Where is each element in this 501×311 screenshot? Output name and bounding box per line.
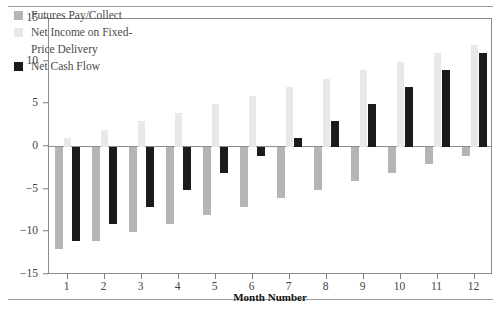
legend-swatch-icon <box>14 28 23 37</box>
legend-item-label-continuation: Price Delivery <box>14 42 98 57</box>
legend-item-label: Futures Pay/Collect <box>31 8 122 23</box>
x-axis-tick-mark <box>474 274 475 279</box>
bar <box>462 147 469 156</box>
x-axis-tick-mark <box>215 274 216 279</box>
x-axis-tick-mark <box>289 274 290 279</box>
bar <box>249 96 256 147</box>
x-axis-tick-mark <box>400 274 401 279</box>
legend-item-futures-pay-collect: Futures Pay/Collect <box>14 8 132 23</box>
y-axis-tick-text: 0 <box>32 140 43 152</box>
x-axis-tick-mark <box>178 274 179 279</box>
bar <box>72 147 79 241</box>
top-divider-rule <box>8 6 493 7</box>
bar <box>183 147 190 190</box>
bar <box>109 147 116 224</box>
bar <box>331 121 338 147</box>
bar <box>64 138 71 147</box>
x-axis-tick-mark <box>326 274 327 279</box>
bar <box>360 70 367 147</box>
bar <box>471 45 478 147</box>
bar <box>166 147 173 224</box>
bar <box>479 53 486 147</box>
x-axis-tick-mark <box>104 274 105 279</box>
bar-group <box>345 19 382 273</box>
bar <box>92 147 99 241</box>
bar <box>405 87 412 147</box>
legend-item-label: Net Cash Flow <box>31 59 100 74</box>
bar <box>294 138 301 147</box>
bar <box>257 147 264 156</box>
legend-item-net-cash-flow: Net Cash Flow <box>14 59 132 74</box>
bar-group <box>234 19 271 273</box>
bar <box>388 147 395 173</box>
bar <box>220 147 227 173</box>
bar-group <box>308 19 345 273</box>
x-axis-tick-mark <box>141 274 142 279</box>
legend: Futures Pay/Collect Net Income on Fixed-… <box>14 8 132 76</box>
bar-group <box>197 19 234 273</box>
bar <box>351 147 358 181</box>
bar <box>277 147 284 198</box>
bar-group <box>271 19 308 273</box>
legend-item-label: Net Income on Fixed- <box>31 25 132 40</box>
y-axis-tick-label: −10 <box>20 226 48 238</box>
bar-group <box>456 19 493 273</box>
bar <box>175 113 182 147</box>
legend-item-net-income-fixed-price-delivery: Net Income on Fixed- <box>14 25 132 40</box>
bar <box>55 147 62 249</box>
y-axis-tick-text: −10 <box>20 226 43 238</box>
y-axis-tick-label: 0 <box>32 140 48 152</box>
bar <box>323 79 330 147</box>
bar <box>240 147 247 207</box>
y-axis-tick-label: −15 <box>20 268 48 280</box>
bar-group <box>160 19 197 273</box>
figure: Dollars (Thousands) 151050−5−10−15 12345… <box>0 0 501 311</box>
bar <box>286 87 293 147</box>
bar <box>425 147 432 164</box>
y-axis-tick-text: −5 <box>26 183 43 195</box>
bar <box>368 104 375 147</box>
legend-swatch-icon <box>14 62 23 71</box>
y-axis-tick-label: −5 <box>26 183 48 195</box>
y-axis-tick-text: −15 <box>20 268 43 280</box>
bar <box>138 121 145 147</box>
legend-item-net-income-line2: Price Delivery <box>14 42 132 57</box>
bar <box>314 147 321 190</box>
bar <box>212 104 219 147</box>
bar <box>129 147 136 232</box>
x-axis-tick-mark <box>67 274 68 279</box>
bar <box>203 147 210 215</box>
y-axis-tick-label: 5 <box>32 98 48 110</box>
bar <box>434 53 441 147</box>
bar <box>146 147 153 207</box>
bar <box>101 130 108 147</box>
bar <box>397 62 404 147</box>
y-axis-tick-text: 5 <box>32 98 43 110</box>
x-axis-tick-mark <box>363 274 364 279</box>
bar-group <box>419 19 456 273</box>
bar-group <box>382 19 419 273</box>
bar <box>442 70 449 147</box>
legend-swatch-icon <box>14 11 23 20</box>
x-axis-title: Month Number <box>48 291 492 303</box>
x-axis-tick-mark <box>252 274 253 279</box>
x-axis-tick-mark <box>437 274 438 279</box>
